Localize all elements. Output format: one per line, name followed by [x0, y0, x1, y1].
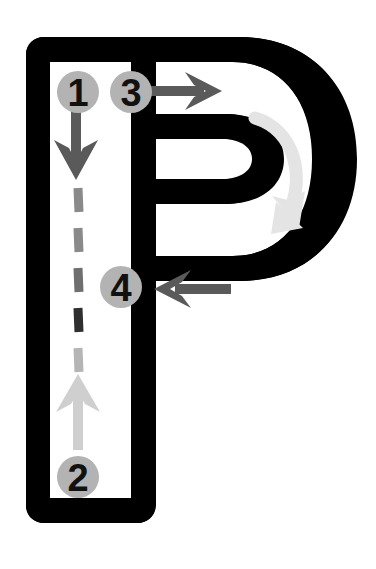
dash-segment	[78, 228, 79, 252]
step-badge-label: 4	[110, 267, 131, 309]
dash-segment	[78, 348, 79, 372]
right-arrow-shaft-icon	[150, 86, 204, 96]
dash-segment	[78, 188, 79, 212]
dash-segment	[78, 268, 79, 292]
dash-segment	[78, 308, 79, 332]
step-badge-label: 3	[120, 72, 141, 114]
letter-p-canvas: 1234	[0, 0, 376, 569]
up-arrow-shaft-icon	[73, 392, 83, 450]
letter-p-bowl-inner-counter	[155, 139, 252, 179]
left-arrow-shaft-icon	[175, 284, 231, 294]
step-badge-label: 1	[67, 72, 88, 114]
letter-stroke-order-figure: 1234	[0, 0, 376, 569]
step-badge-label: 2	[67, 457, 88, 499]
